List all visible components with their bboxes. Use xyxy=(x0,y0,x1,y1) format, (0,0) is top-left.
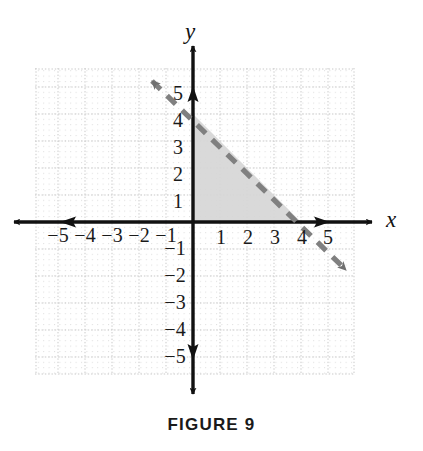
x-tick-label-neg-3: −3 xyxy=(101,224,122,246)
x-tick-label-neg-4: −4 xyxy=(74,224,95,246)
y-tick-label-4: 4 xyxy=(173,109,183,131)
x-tick-label-neg-2: −2 xyxy=(128,224,149,246)
x-axis-label: x xyxy=(385,207,397,232)
figure-container: 1 2 3 4 5 −5 −4 −3 −2 −1 5 4 3 2 1 −1 −2… xyxy=(0,0,423,451)
figure-caption: FIGURE 9 xyxy=(0,415,423,435)
x-tick-label-neg-5: −5 xyxy=(47,224,68,246)
x-tick-label-1: 1 xyxy=(216,226,226,248)
y-tick-label-neg-4: −4 xyxy=(164,318,185,340)
y-tick-label-neg-2: −2 xyxy=(164,264,185,286)
x-tick-label-3: 3 xyxy=(270,226,280,248)
y-tick-label-5: 5 xyxy=(173,82,183,104)
y-tick-label-3: 3 xyxy=(173,136,183,158)
x-tick-label-2: 2 xyxy=(243,226,253,248)
x-tick-label-5: 5 xyxy=(323,226,333,248)
y-tick-label-2: 2 xyxy=(173,163,183,185)
coordinate-plane-chart: 1 2 3 4 5 −5 −4 −3 −2 −1 5 4 3 2 1 −1 −2… xyxy=(0,0,423,451)
y-axis-label: y xyxy=(183,19,196,44)
x-tick-label-4: 4 xyxy=(297,226,307,248)
y-tick-label-neg-3: −3 xyxy=(164,291,185,313)
y-tick-label-neg-5: −5 xyxy=(164,345,185,367)
y-tick-label-1: 1 xyxy=(173,190,183,212)
y-tick-label-neg-1: −1 xyxy=(164,237,185,259)
